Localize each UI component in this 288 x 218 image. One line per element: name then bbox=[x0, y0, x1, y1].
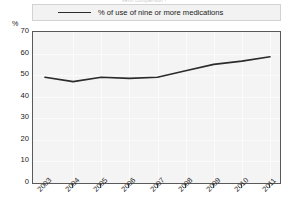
legend-label: % of use of nine or more medications bbox=[98, 8, 223, 17]
plot-area bbox=[32, 31, 281, 184]
y-tick-label: 70 bbox=[3, 27, 29, 35]
y-tick-label: 40 bbox=[3, 92, 29, 100]
y-axis-labels: 010203040506070 bbox=[0, 0, 29, 218]
y-tick-label: 20 bbox=[3, 135, 29, 143]
y-tick-label: 10 bbox=[3, 156, 29, 164]
legend-entry: % of use of nine or more medications bbox=[33, 5, 280, 20]
line-swatch-icon bbox=[58, 12, 91, 13]
data-series-line bbox=[33, 32, 280, 183]
chart-title: Venn comparison - bbox=[0, 0, 288, 3]
y-tick-label: 60 bbox=[3, 49, 29, 57]
y-tick-label: 50 bbox=[3, 70, 29, 78]
y-tick-label: 30 bbox=[3, 113, 29, 121]
chart-legend: % of use of nine or more medications bbox=[32, 4, 281, 21]
chart-page: Venn comparison - % of use of nine or mo… bbox=[0, 0, 288, 218]
y-tick-label: 0 bbox=[3, 178, 29, 186]
